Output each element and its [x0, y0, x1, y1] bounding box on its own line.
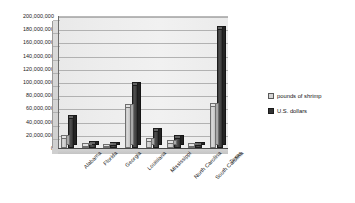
bar-side-face	[110, 143, 113, 145]
x-axis-tick-label: Mississippi	[169, 150, 192, 173]
bar-side-face	[174, 140, 177, 145]
bar-front-face	[82, 146, 89, 148]
bar-side-face	[131, 104, 134, 145]
bar-group	[58, 16, 79, 148]
bar-side-face	[89, 143, 92, 145]
bar-group	[143, 16, 164, 148]
y-axis-tick-label: 100,000,000	[23, 79, 54, 85]
chart-legend: pounds of shrimpU.S. dollars	[268, 92, 352, 122]
bar-pounds-of-shrimp	[167, 143, 174, 148]
shrimp-landings-bar-chart: 020,000,00040,000,00060,000,00080,000,00…	[0, 0, 355, 203]
bar-front-face	[146, 141, 153, 148]
x-axis-tick-label: Florida	[102, 150, 118, 166]
bar-front-face	[167, 143, 174, 148]
bar-pounds-of-shrimp	[146, 141, 153, 148]
bar-front-face	[125, 107, 132, 148]
y-axis-tick-label: 80,000,000	[26, 92, 54, 98]
legend-swatch-icon	[268, 108, 274, 114]
y-axis-tick-label: 40,000,000	[26, 119, 54, 125]
bar-front-face	[210, 106, 217, 148]
bar-group	[186, 16, 207, 148]
bar-pounds-of-shrimp	[82, 146, 89, 148]
bar-side-face	[159, 128, 162, 145]
bar-group	[122, 16, 143, 148]
bar-group	[164, 16, 185, 148]
x-axis-tick-label: Louisiana	[146, 150, 167, 171]
bar-side-face	[74, 115, 77, 145]
y-axis-tick-label: 140,000,000	[23, 53, 54, 59]
bars-layer	[58, 16, 228, 148]
bar-pounds-of-shrimp	[188, 146, 195, 148]
bar-front-face	[110, 145, 117, 148]
bar-side-face	[138, 82, 141, 145]
legend-swatch-icon	[268, 93, 274, 99]
y-axis-tick-label: 180,000,000	[23, 26, 54, 32]
bar-front-face	[103, 146, 110, 148]
legend-item[interactable]: U.S. dollars	[268, 107, 352, 115]
bar-pounds-of-shrimp	[210, 106, 217, 148]
legend-item-label: pounds of shrimp	[277, 93, 321, 99]
x-axis-tick-label: Georgia	[124, 150, 142, 168]
bar-us-dollars	[110, 145, 117, 148]
y-axis: 020,000,00040,000,00060,000,00080,000,00…	[0, 13, 56, 151]
x-axis: AlabamaFloridaGeorgiaLouisianaMississipp…	[58, 150, 238, 202]
bar-pounds-of-shrimp	[125, 107, 132, 148]
x-axis-tick-label: Alabama	[82, 150, 102, 170]
bar-group	[101, 16, 122, 148]
bar-pounds-of-shrimp	[61, 138, 68, 148]
bar-side-face	[216, 103, 219, 145]
legend-item-label: U.S. dollars	[277, 108, 307, 114]
bar-front-face	[195, 145, 202, 148]
bar-side-face	[181, 135, 184, 145]
bar-side-face	[67, 135, 70, 145]
y-axis-tick-label: 200,000,000	[23, 13, 54, 19]
x-axis-line	[58, 148, 228, 149]
bar-side-face	[152, 138, 155, 145]
bar-group	[79, 16, 100, 148]
bar-us-dollars	[195, 145, 202, 148]
y-axis-tick-label: 120,000,000	[23, 66, 54, 72]
bar-side-face	[202, 142, 205, 145]
bar-pounds-of-shrimp	[103, 147, 110, 148]
legend-item[interactable]: pounds of shrimp	[268, 92, 352, 100]
bar-side-face	[195, 143, 198, 145]
bar-side-face	[223, 26, 226, 145]
y-axis-tick-label: 160,000,000	[23, 39, 54, 45]
bar-front-face	[188, 146, 195, 148]
y-axis-tick-label: 60,000,000	[26, 105, 54, 111]
bar-group	[207, 16, 228, 148]
bar-side-face	[96, 141, 99, 145]
bar-front-face	[61, 138, 68, 148]
y-axis-tick-label: 20,000,000	[26, 132, 54, 138]
bar-side-face	[117, 142, 120, 145]
